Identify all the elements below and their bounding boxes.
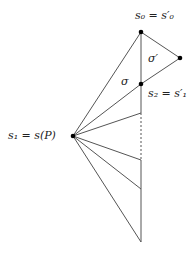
label-s2: s₂ = s′₁ — [148, 88, 187, 99]
diagram-canvas — [0, 0, 195, 255]
edge-right-s2 — [141, 58, 180, 84]
point-s0 — [139, 30, 144, 35]
fan-edge-3 — [73, 136, 141, 189]
edge-s1-s2 — [73, 84, 141, 136]
edge-s1-s0 — [73, 32, 141, 136]
point-right — [178, 56, 183, 61]
fan-edge-4 — [73, 136, 141, 242]
label-sigma-prime: σ′ — [148, 53, 158, 64]
label-s1: s₁ = s(P) — [8, 130, 56, 141]
point-s1 — [71, 134, 76, 139]
fan-edge-1 — [73, 113, 141, 136]
edge-s0-right — [141, 32, 180, 58]
label-sigma: σ — [121, 76, 129, 87]
fan-edge-2 — [73, 136, 141, 160]
point-s2 — [139, 82, 144, 87]
label-s0: s₀ = s′₀ — [135, 10, 174, 21]
